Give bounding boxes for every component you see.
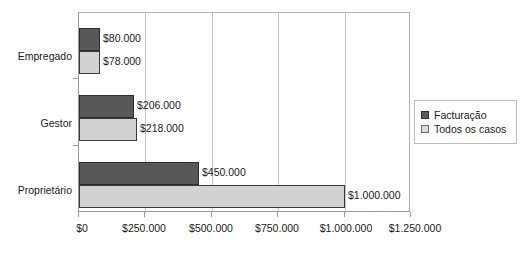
value-label-gestor-todos-os-casos: $218.000 (140, 123, 184, 134)
category-tick-1 (73, 78, 78, 79)
legend-label-todos-os-casos: Todos os casos (434, 123, 506, 135)
bar-gestor-facturacao[interactable] (79, 95, 134, 118)
category-tick-2 (73, 145, 78, 146)
value-label-gestor-facturacao: $206.000 (137, 100, 181, 111)
category-label-empregado: Empregado (18, 50, 72, 62)
x-tick-label-750000: $750.000 (255, 222, 299, 234)
category-axis: Empregado Gestor Proprietário (0, 12, 72, 212)
x-tick-label-1000000: $1.000.000 (320, 222, 373, 234)
legend-item-facturacao[interactable]: Facturação (421, 109, 509, 121)
value-label-proprietario-todos-os-casos: $1.000.000 (348, 190, 401, 201)
value-label-empregado-todos-os-casos: $78.000 (103, 56, 141, 67)
x-tick-750000 (277, 212, 278, 217)
x-tick-500000 (211, 212, 212, 217)
legend-label-facturacao: Facturação (434, 109, 487, 121)
bar-proprietario-todos-os-casos[interactable] (79, 185, 345, 208)
value-label-proprietario-facturacao: $450.000 (202, 167, 246, 178)
gridline-500000 (212, 13, 213, 211)
x-tick-label-250000: $250.000 (122, 222, 166, 234)
value-label-empregado-facturacao: $80.000 (103, 33, 141, 44)
x-tick-250000 (144, 212, 145, 217)
bar-chart: $80.000 $78.000 $206.000 $218.000 $450.0… (0, 0, 527, 255)
legend-item-todos-os-casos[interactable]: Todos os casos (421, 123, 509, 135)
x-tick-label-500000: $500.000 (189, 222, 233, 234)
bar-gestor-todos-os-casos[interactable] (79, 118, 137, 141)
x-tick-1250000 (410, 212, 411, 217)
legend-swatch-icon-todos-os-casos (421, 125, 429, 133)
gridline-750000 (278, 13, 279, 211)
bar-empregado-todos-os-casos[interactable] (79, 51, 100, 74)
x-tick-label-0: $0 (76, 222, 88, 234)
chart-legend: Facturação Todos os casos (414, 100, 517, 144)
x-tick-0 (78, 212, 79, 217)
bar-proprietario-facturacao[interactable] (79, 162, 199, 185)
category-label-proprietario: Proprietário (18, 184, 72, 196)
legend-swatch-icon-facturacao (421, 111, 429, 119)
gridline-1000000 (345, 13, 346, 211)
bar-empregado-facturacao[interactable] (79, 28, 100, 51)
x-tick-1000000 (344, 212, 345, 217)
category-label-gestor: Gestor (40, 117, 72, 129)
x-tick-label-1250000: $1.250.000 (389, 222, 442, 234)
